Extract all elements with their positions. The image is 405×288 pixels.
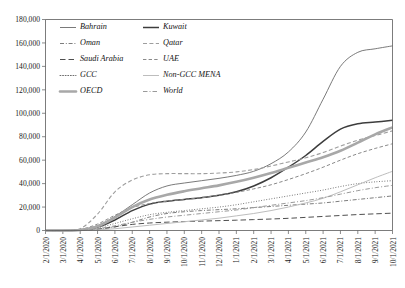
x-tick-label: 10/1/2021 bbox=[389, 237, 398, 267]
x-tick-label: 4/1/2021 bbox=[284, 237, 293, 264]
y-tick-label: 160,000 bbox=[15, 39, 40, 48]
legend-label-qatar: Qatar bbox=[163, 38, 183, 47]
legend-label-kuwait: Kuwait bbox=[162, 22, 187, 31]
x-tick-label: 7/1/2020 bbox=[128, 237, 137, 264]
legend-label-bahrain: Bahrain bbox=[80, 22, 107, 31]
y-tick-label: 0 bbox=[36, 226, 40, 235]
x-tick-label: 5/1/2021 bbox=[302, 237, 311, 264]
x-tick-label: 7/1/2021 bbox=[336, 237, 345, 264]
legend-label-non-gcc-mena: Non-GCC MENA bbox=[162, 70, 222, 79]
x-tick-label: 3/1/2021 bbox=[267, 237, 276, 264]
x-tick-label: 6/1/2021 bbox=[319, 237, 328, 264]
legend-label-world: World bbox=[163, 86, 184, 95]
x-tick-label: 6/1/2020 bbox=[111, 237, 120, 264]
legend-label-saudi-arabia: Saudi Arabia bbox=[80, 54, 123, 63]
y-tick-label: 40,000 bbox=[19, 179, 40, 188]
x-tick-label: 12/1/2020 bbox=[215, 237, 224, 267]
legend-label-oman: Oman bbox=[80, 38, 100, 47]
x-tick-label: 5/1/2020 bbox=[94, 237, 103, 264]
x-tick-label: 1/1/2021 bbox=[232, 237, 241, 264]
y-tick-label: 180,000 bbox=[15, 15, 40, 24]
x-tick-label: 2/1/2020 bbox=[42, 237, 51, 264]
x-tick-label: 9/1/2021 bbox=[371, 237, 380, 264]
y-tick-label: 60,000 bbox=[19, 156, 40, 165]
x-tick-label: 9/1/2020 bbox=[163, 237, 172, 264]
x-tick-label: 4/1/2020 bbox=[76, 237, 85, 264]
legend-label-uae: UAE bbox=[163, 54, 179, 63]
legend-label-gcc: GCC bbox=[80, 70, 97, 79]
x-tick-label: 3/1/2020 bbox=[59, 237, 68, 264]
y-tick-label: 20,000 bbox=[19, 203, 40, 212]
x-tick-label: 8/1/2020 bbox=[146, 237, 155, 264]
line-chart: 020,00040,00060,00080,000100,000120,0001… bbox=[0, 0, 405, 288]
y-tick-label: 140,000 bbox=[15, 62, 40, 71]
x-tick-label: 11/1/2020 bbox=[198, 237, 207, 267]
y-tick-label: 100,000 bbox=[15, 109, 40, 118]
chart-canvas: 020,00040,00060,00080,000100,000120,0001… bbox=[0, 0, 405, 288]
x-tick-label: 2/1/2021 bbox=[250, 237, 259, 264]
y-tick-label: 80,000 bbox=[19, 132, 40, 141]
y-tick-label: 120,000 bbox=[15, 86, 40, 95]
x-tick-label: 10/1/2020 bbox=[180, 237, 189, 267]
legend-label-oecd: OECD bbox=[80, 86, 102, 95]
x-tick-label: 8/1/2021 bbox=[354, 237, 363, 264]
